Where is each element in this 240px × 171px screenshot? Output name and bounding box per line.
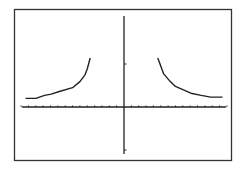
calculator-graph-screen	[0, 0, 240, 171]
screen-frame	[15, 10, 232, 161]
